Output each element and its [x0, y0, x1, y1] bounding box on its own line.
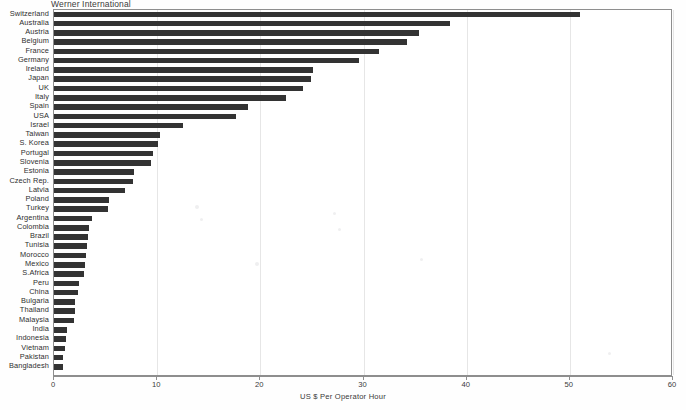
scan-artifact: [420, 258, 423, 261]
y-axis-label-morocco: Morocco: [20, 250, 49, 259]
y-axis-label-usa: USA: [34, 111, 50, 120]
scan-artifact: [255, 262, 259, 266]
bar-portugal: [54, 151, 153, 157]
y-axis-label-portugal: Portugal: [21, 148, 49, 157]
y-axis-label-latvia: Latvia: [29, 185, 49, 194]
y-axis-label-israel: Israel: [30, 120, 49, 129]
bar-vietnam: [54, 346, 65, 352]
y-axis-label-mexico: Mexico: [25, 259, 49, 268]
bar-switzerland: [54, 12, 580, 18]
y-axis-label-turkey: Turkey: [26, 203, 49, 212]
y-axis-label-poland: Poland: [25, 194, 49, 203]
y-axis-label-vietnam: Vietnam: [21, 343, 49, 352]
x-axis-title: US $ Per Operator Hour: [0, 392, 686, 401]
y-axis-label-bulgaria: Bulgaria: [21, 296, 49, 305]
bar-indonesia: [54, 336, 66, 342]
y-axis-label-colombia: Colombia: [17, 222, 49, 231]
y-axis-label-malaysia: Malaysia: [19, 315, 49, 324]
bar-bulgaria: [54, 299, 75, 305]
bar-peru: [54, 281, 79, 287]
bar-china: [54, 290, 78, 296]
y-axis-label-slovenia: Slovenia: [20, 157, 49, 166]
y-axis-label-india: India: [32, 324, 49, 333]
y-axis-label-uk: UK: [39, 83, 49, 92]
y-axis-label-peru: Peru: [33, 278, 49, 287]
x-tick-label-30: 30: [358, 380, 366, 389]
gridline-60: [673, 10, 674, 375]
bar-s-africa: [54, 271, 84, 277]
plot-area: [53, 9, 672, 376]
bar-taiwan: [54, 132, 160, 138]
chart-figure: Werner International SwitzerlandAustrali…: [0, 0, 686, 410]
y-axis-label-bangladesh: Bangladesh: [9, 361, 49, 370]
x-tick-label-60: 60: [668, 380, 676, 389]
bar-bangladesh: [54, 364, 63, 370]
bar-italy: [54, 95, 286, 101]
x-tick-label-0: 0: [51, 380, 55, 389]
y-axis-label-germany: Germany: [18, 55, 49, 64]
y-axis-label-indonesia: Indonesia: [16, 333, 49, 342]
y-axis-label-austria: Austria: [25, 27, 49, 36]
y-axis-label-taiwan: Taiwan: [25, 129, 49, 138]
y-axis-label-australia: Australia: [19, 18, 49, 27]
bar-tunisia: [54, 243, 87, 249]
x-tick-label-40: 40: [461, 380, 469, 389]
bar-usa: [54, 114, 236, 120]
bar-latvia: [54, 188, 125, 194]
y-axis-label-spain: Spain: [30, 101, 49, 110]
bar-spain: [54, 104, 248, 110]
scan-artifact: [333, 212, 336, 215]
bar-japan: [54, 76, 311, 82]
y-axis-label-switzerland: Switzerland: [10, 9, 49, 18]
bar-estonia: [54, 169, 134, 175]
bar-czech-rep: [54, 179, 133, 185]
bar-israel: [54, 123, 183, 129]
scan-artifact: [200, 218, 203, 221]
y-axis-label-s-korea: S. Korea: [19, 138, 49, 147]
bar-morocco: [54, 253, 86, 259]
bar-pakistan: [54, 355, 63, 361]
bar-india: [54, 327, 67, 333]
bar-uk: [54, 86, 303, 92]
bar-australia: [54, 21, 450, 27]
y-axis-label-japan: Japan: [28, 73, 49, 82]
y-axis-label-s-africa: S.Africa: [22, 268, 49, 277]
y-axis-label-brazil: Brazil: [30, 231, 49, 240]
x-tick-label-10: 10: [152, 380, 160, 389]
bar-argentina: [54, 216, 92, 222]
y-axis-label-china: China: [29, 287, 49, 296]
chart-title: Werner International: [51, 0, 131, 9]
y-axis-label-czech-rep: Czech Rep.: [9, 176, 49, 185]
y-axis-label-belgium: Belgium: [22, 36, 49, 45]
bars-layer: [54, 10, 671, 375]
scan-artifact: [608, 352, 611, 355]
bar-brazil: [54, 234, 88, 240]
y-axis-label-france: France: [25, 46, 49, 55]
bar-poland: [54, 197, 109, 203]
bar-colombia: [54, 225, 89, 231]
x-tick-label-50: 50: [565, 380, 573, 389]
y-axis-label-thailand: Thailand: [20, 305, 49, 314]
bar-ireland: [54, 67, 313, 73]
y-axis-label-italy: Italy: [35, 92, 49, 101]
y-axis-label-pakistan: Pakistan: [20, 352, 49, 361]
x-tick-label-20: 20: [255, 380, 263, 389]
bar-austria: [54, 30, 419, 36]
bar-germany: [54, 58, 359, 64]
scan-artifact: [338, 228, 341, 231]
bar-turkey: [54, 206, 108, 212]
bar-s-korea: [54, 141, 158, 147]
y-axis-label-tunisia: Tunisia: [25, 240, 49, 249]
y-axis-label-argentina: Argentina: [16, 213, 49, 222]
bar-malaysia: [54, 318, 74, 324]
scan-artifact: [195, 205, 199, 209]
bar-belgium: [54, 39, 407, 45]
y-axis-label-ireland: Ireland: [26, 64, 49, 73]
bar-mexico: [54, 262, 85, 268]
y-axis-label-estonia: Estonia: [24, 166, 49, 175]
bar-slovenia: [54, 160, 151, 166]
y-axis-labels: SwitzerlandAustraliaAustriaBelgiumFrance…: [0, 9, 51, 376]
bar-thailand: [54, 308, 75, 314]
bar-france: [54, 49, 379, 55]
